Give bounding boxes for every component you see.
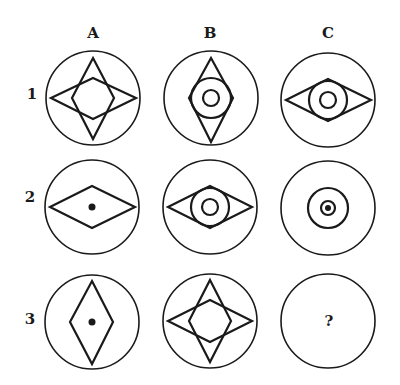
column-label-c: C bbox=[322, 24, 334, 42]
medium-circle bbox=[191, 78, 231, 118]
horizontal-diamond bbox=[168, 300, 252, 342]
cell-a3 bbox=[45, 275, 139, 369]
column-label-b: B bbox=[204, 24, 217, 42]
horizontal-diamond bbox=[51, 78, 136, 119]
center-dot bbox=[89, 204, 96, 211]
vertical-diamond bbox=[189, 58, 233, 142]
small-circle bbox=[202, 199, 218, 215]
cell-c3: ? bbox=[281, 274, 375, 368]
cell-b3 bbox=[163, 274, 257, 368]
small-circle bbox=[320, 92, 336, 108]
cell-frame-circle bbox=[46, 51, 140, 145]
cell-frame-circle bbox=[164, 51, 258, 145]
row-label-3: 3 bbox=[25, 310, 35, 328]
horizontal-diamond bbox=[168, 186, 252, 228]
cell-c1 bbox=[281, 53, 375, 147]
cell-c2 bbox=[281, 161, 375, 255]
cell-frame-circle bbox=[163, 160, 257, 254]
cell-b1 bbox=[164, 51, 258, 145]
cell-a2 bbox=[45, 160, 139, 254]
cell-a1 bbox=[46, 51, 140, 145]
column-label-a: A bbox=[86, 24, 99, 42]
vertical-diamond bbox=[189, 280, 231, 362]
center-dot bbox=[325, 205, 331, 211]
horizontal-diamond bbox=[286, 79, 371, 121]
row-label-2: 2 bbox=[25, 188, 35, 206]
question-mark: ? bbox=[325, 312, 334, 330]
cell-frame-circle bbox=[281, 53, 375, 147]
medium-circle bbox=[309, 81, 347, 119]
small-circle bbox=[203, 90, 219, 106]
vertical-diamond bbox=[72, 58, 114, 139]
row-label-1: 1 bbox=[27, 85, 37, 103]
cell-b2 bbox=[163, 160, 257, 254]
medium-circle bbox=[191, 188, 229, 226]
cell-frame-circle bbox=[163, 274, 257, 368]
center-dot bbox=[89, 319, 96, 326]
matrix-puzzle: A B C 1 2 3 bbox=[0, 0, 400, 385]
